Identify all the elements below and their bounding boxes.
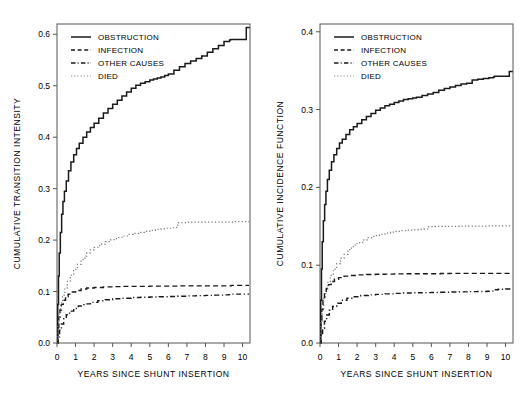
y-tick-label: 0.4 bbox=[301, 27, 313, 37]
plot-frame bbox=[320, 24, 513, 343]
panel-cumulative-transition-intensity: 0.00.10.20.30.40.50.6012345678910YEARS S… bbox=[0, 0, 263, 396]
y-tick-label: 0.0 bbox=[301, 338, 313, 348]
x-tick-label: 3 bbox=[110, 352, 115, 362]
legend-label-obstruction: OBSTRUCTION bbox=[98, 33, 159, 42]
y-tick-label: 0.2 bbox=[301, 182, 313, 192]
x-tick-label: 5 bbox=[410, 352, 415, 362]
legend-label-died: DIED bbox=[98, 72, 118, 81]
x-tick-label: 2 bbox=[355, 352, 360, 362]
curve-other-causes bbox=[57, 294, 249, 343]
y-tick-label: 0.2 bbox=[38, 235, 50, 245]
x-axis-label: YEARS SINCE SHUNT INSERTION bbox=[341, 369, 493, 379]
chart-right: 0.00.10.20.30.4012345678910YEARS SINCE S… bbox=[263, 0, 526, 396]
legend-label-infection: INFECTION bbox=[361, 46, 406, 55]
chart-left: 0.00.10.20.30.40.50.6012345678910YEARS S… bbox=[0, 0, 263, 396]
curve-infection bbox=[57, 285, 249, 343]
x-tick-label: 8 bbox=[203, 352, 208, 362]
x-tick-label: 3 bbox=[373, 352, 378, 362]
figure-root: 0.00.10.20.30.40.50.6012345678910YEARS S… bbox=[0, 0, 526, 396]
x-tick-label: 0 bbox=[55, 352, 60, 362]
curve-obstruction bbox=[57, 27, 249, 343]
y-tick-label: 0.3 bbox=[301, 105, 313, 115]
x-tick-label: 7 bbox=[185, 352, 190, 362]
y-tick-label: 0.1 bbox=[301, 260, 313, 270]
y-axis-label: CUMULATIVE TRANSITION INTENSITY bbox=[12, 98, 22, 270]
x-tick-label: 10 bbox=[501, 352, 511, 362]
x-tick-label: 9 bbox=[485, 352, 490, 362]
y-tick-label: 0.5 bbox=[38, 81, 50, 91]
x-tick-label: 8 bbox=[466, 352, 471, 362]
legend-label-died: DIED bbox=[361, 72, 381, 81]
plot-frame bbox=[57, 24, 250, 343]
x-tick-label: 6 bbox=[166, 352, 171, 362]
curve-infection bbox=[320, 273, 512, 343]
x-tick-label: 1 bbox=[336, 352, 341, 362]
y-axis-label: CUMULATIVE INCIDENCE FUNCTION bbox=[275, 101, 285, 267]
y-tick-label: 0.6 bbox=[38, 29, 50, 39]
legend-label-other-causes: OTHER CAUSES bbox=[98, 59, 164, 68]
curve-died bbox=[320, 226, 512, 343]
x-axis-label: YEARS SINCE SHUNT INSERTION bbox=[78, 369, 230, 379]
x-tick-label: 4 bbox=[129, 352, 134, 362]
legend-label-infection: INFECTION bbox=[98, 46, 143, 55]
y-tick-label: 0.0 bbox=[38, 338, 50, 348]
x-tick-label: 1 bbox=[73, 352, 78, 362]
x-tick-label: 4 bbox=[392, 352, 397, 362]
curve-died bbox=[57, 222, 249, 343]
panel-cumulative-incidence-function: 0.00.10.20.30.4012345678910YEARS SINCE S… bbox=[263, 0, 526, 396]
legend-label-other-causes: OTHER CAUSES bbox=[361, 59, 427, 68]
x-tick-label: 0 bbox=[318, 352, 323, 362]
curve-obstruction bbox=[320, 71, 512, 343]
y-tick-label: 0.4 bbox=[38, 132, 50, 142]
x-tick-label: 6 bbox=[429, 352, 434, 362]
x-tick-label: 9 bbox=[222, 352, 227, 362]
x-tick-label: 5 bbox=[147, 352, 152, 362]
y-tick-label: 0.1 bbox=[38, 287, 50, 297]
x-tick-label: 7 bbox=[448, 352, 453, 362]
x-tick-label: 10 bbox=[238, 352, 248, 362]
curve-other-causes bbox=[320, 289, 512, 343]
x-tick-label: 2 bbox=[92, 352, 97, 362]
y-tick-label: 0.3 bbox=[38, 184, 50, 194]
legend-label-obstruction: OBSTRUCTION bbox=[361, 33, 422, 42]
